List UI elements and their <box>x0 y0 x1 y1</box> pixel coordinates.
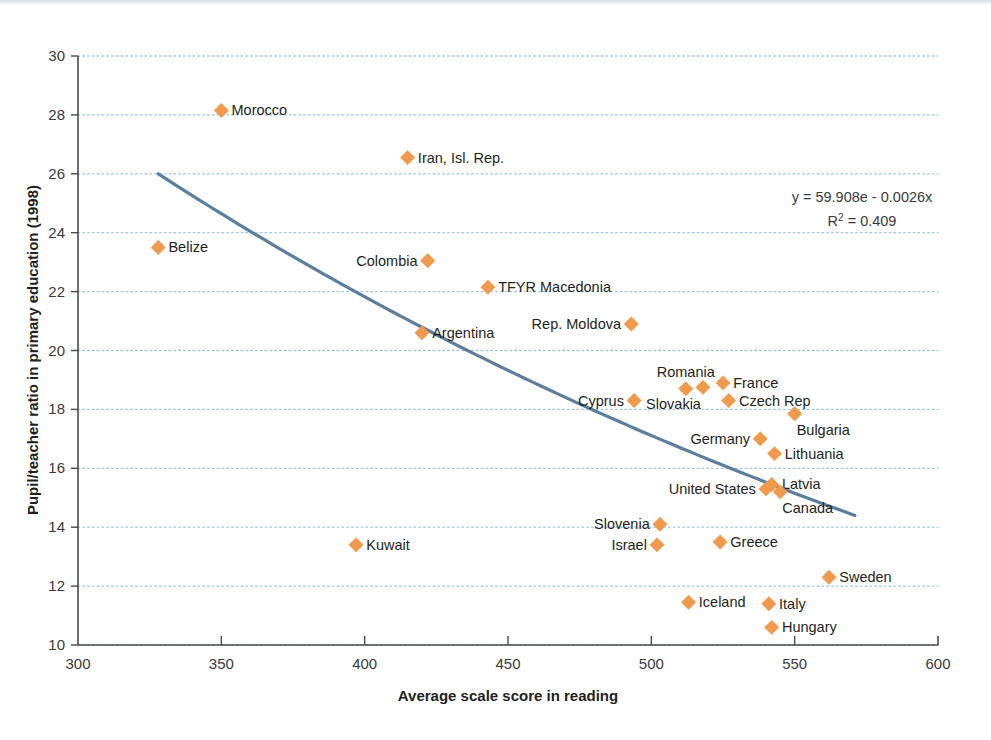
data-point-label: Iran, Isl. Rep. <box>418 150 504 166</box>
data-point[interactable]: Czech Rep <box>722 393 811 409</box>
data-point[interactable]: France <box>716 375 779 391</box>
data-points-group: MoroccoBelizeIran, Isl. Rep.ColombiaTFYR… <box>151 102 892 635</box>
y-tick-label-10: 10 <box>48 636 65 653</box>
diamond-marker-icon[interactable] <box>349 538 363 552</box>
diamond-marker-icon[interactable] <box>765 620 779 634</box>
y-tick-label-16: 16 <box>48 459 65 476</box>
data-point-label: Bulgaria <box>797 422 851 438</box>
data-point-label: Sweden <box>839 569 891 585</box>
data-point[interactable]: Colombia <box>356 253 435 269</box>
data-point[interactable]: Iran, Isl. Rep. <box>400 150 504 166</box>
data-point[interactable]: Belize <box>151 239 208 255</box>
data-point-label: Hungary <box>782 619 838 635</box>
data-point-label: Belize <box>168 239 208 255</box>
diamond-marker-icon[interactable] <box>713 535 727 549</box>
data-point-label: United States <box>669 481 756 497</box>
data-point-label: Colombia <box>356 253 418 269</box>
data-point[interactable]: Lithuania <box>767 446 844 462</box>
data-point[interactable]: Slovenia <box>594 516 667 532</box>
x-tick-label-500: 500 <box>639 655 664 672</box>
diamond-marker-icon[interactable] <box>716 376 730 390</box>
y-tick-label-30: 30 <box>48 47 65 64</box>
diamond-marker-icon[interactable] <box>753 432 767 446</box>
x-tick-label-300: 300 <box>65 655 90 672</box>
diamond-marker-icon[interactable] <box>624 317 638 331</box>
data-point-label: Iceland <box>699 594 746 610</box>
x-tick-group: 300350400450500550600 <box>65 636 950 672</box>
diamond-marker-icon[interactable] <box>627 393 641 407</box>
diamond-marker-icon[interactable] <box>400 150 414 164</box>
data-point-label: Slovakia <box>646 396 702 412</box>
data-point[interactable]: Rep. Moldova <box>532 316 639 332</box>
data-point-label: Latvia <box>782 476 822 492</box>
x-tick-label-350: 350 <box>209 655 234 672</box>
r-squared-prefix: R <box>828 213 838 229</box>
data-point-label: Cyprus <box>578 393 624 409</box>
data-point-label: Czech Rep <box>739 393 811 409</box>
x-tick-label-450: 450 <box>495 655 520 672</box>
data-point[interactable]: Hungary <box>765 619 838 635</box>
diamond-marker-icon[interactable] <box>653 517 667 531</box>
trendline <box>158 174 855 516</box>
diamond-marker-icon[interactable] <box>696 380 710 394</box>
data-point[interactable]: Bulgaria <box>787 407 850 438</box>
regression-equation: y = 59.908e - 0.0026x <box>792 189 933 205</box>
data-point[interactable]: Romania <box>657 364 716 396</box>
data-point-label: Slovenia <box>594 516 651 532</box>
data-point[interactable]: Cyprus <box>578 393 641 409</box>
trendline-group <box>158 174 855 516</box>
diamond-marker-icon[interactable] <box>421 253 435 267</box>
diamond-marker-icon[interactable] <box>722 393 736 407</box>
x-axis-title: Average scale score in reading <box>398 687 618 704</box>
data-point-label: Rep. Moldova <box>532 316 622 332</box>
data-point-label: Greece <box>730 534 778 550</box>
data-point[interactable]: Sweden <box>822 569 892 585</box>
scatter-plot: 300350400450500550600 101214161820222426… <box>0 0 991 740</box>
x-tick-label-550: 550 <box>782 655 807 672</box>
y-tick-label-26: 26 <box>48 165 65 182</box>
diamond-marker-icon[interactable] <box>415 326 429 340</box>
data-point[interactable]: Italy <box>762 596 807 612</box>
y-tick-label-24: 24 <box>48 224 65 241</box>
data-point-label: Argentina <box>432 325 495 341</box>
diamond-marker-icon[interactable] <box>681 595 695 609</box>
data-point-label: France <box>733 375 778 391</box>
data-point-label: Kuwait <box>366 537 410 553</box>
data-point[interactable]: TFYR Macedonia <box>481 279 612 295</box>
data-point[interactable]: Kuwait <box>349 537 410 553</box>
y-tick-label-18: 18 <box>48 400 65 417</box>
data-point[interactable]: United States <box>669 481 773 497</box>
data-point[interactable]: Slovakia <box>646 380 710 411</box>
data-point-label: TFYR Macedonia <box>498 279 612 295</box>
data-point[interactable]: Argentina <box>415 325 495 341</box>
data-point[interactable]: Morocco <box>214 102 287 118</box>
y-axis-title: Pupil/teacher ratio in primary education… <box>24 185 41 515</box>
diamond-marker-icon[interactable] <box>679 382 693 396</box>
diamond-marker-icon[interactable] <box>151 240 165 254</box>
y-tick-label-20: 20 <box>48 342 65 359</box>
chart-figure: 300350400450500550600 101214161820222426… <box>0 0 991 740</box>
data-point-label: Italy <box>779 596 806 612</box>
data-point[interactable]: Israel <box>611 537 664 553</box>
r-squared-value: = 0.409 <box>844 213 897 229</box>
data-point-label: Lithuania <box>785 446 845 462</box>
diamond-marker-icon[interactable] <box>214 103 228 117</box>
data-point[interactable]: Greece <box>713 534 778 550</box>
data-point[interactable]: Iceland <box>681 594 745 610</box>
diamond-marker-icon[interactable] <box>650 538 664 552</box>
diamond-marker-icon[interactable] <box>762 597 776 611</box>
regression-annotation: y = 59.908e - 0.0026x R2 = 0.409 <box>792 189 933 229</box>
gridlines-group <box>78 56 938 645</box>
data-point-label: Germany <box>690 431 750 447</box>
x-tick-label-400: 400 <box>352 655 377 672</box>
data-point-label: Morocco <box>232 102 288 118</box>
data-point-label: Israel <box>611 537 646 553</box>
data-point[interactable]: Latvia <box>765 476 822 492</box>
data-point[interactable]: Germany <box>690 431 767 447</box>
x-tick-label-600: 600 <box>925 655 950 672</box>
y-tick-label-12: 12 <box>48 577 65 594</box>
diamond-marker-icon[interactable] <box>767 446 781 460</box>
data-point-label: Romania <box>657 364 716 380</box>
diamond-marker-icon[interactable] <box>822 570 836 584</box>
y-tick-label-22: 22 <box>48 283 65 300</box>
